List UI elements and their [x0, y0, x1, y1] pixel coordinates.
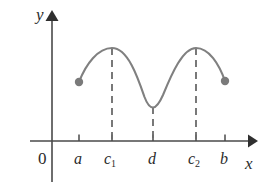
tick-label-a-text: a: [74, 150, 82, 167]
tick-label-b: b: [220, 151, 228, 167]
origin-label: 0: [38, 150, 47, 167]
y-axis-label: y: [36, 6, 44, 23]
tick-label-d-text: d: [148, 150, 156, 167]
tick-label-c1: c1: [104, 151, 116, 167]
curve-endpoint-right-dot: [221, 77, 229, 85]
tick-label-c2: c2: [188, 151, 200, 167]
x-axis-arrowhead: [248, 135, 258, 148]
curve-endpoint-left-dot: [75, 78, 83, 86]
function-curve: [79, 48, 225, 108]
graph-figure: y x 0 a c1 d c2 b: [0, 0, 274, 182]
x-axis-label: x: [245, 155, 253, 172]
tick-label-b-text: b: [220, 150, 228, 167]
tick-label-a: a: [74, 151, 82, 167]
tick-label-c2-subscript: 2: [195, 158, 200, 169]
y-axis-arrowhead: [46, 10, 59, 21]
tick-label-c1-subscript: 1: [111, 158, 116, 169]
tick-label-d: d: [148, 151, 156, 167]
